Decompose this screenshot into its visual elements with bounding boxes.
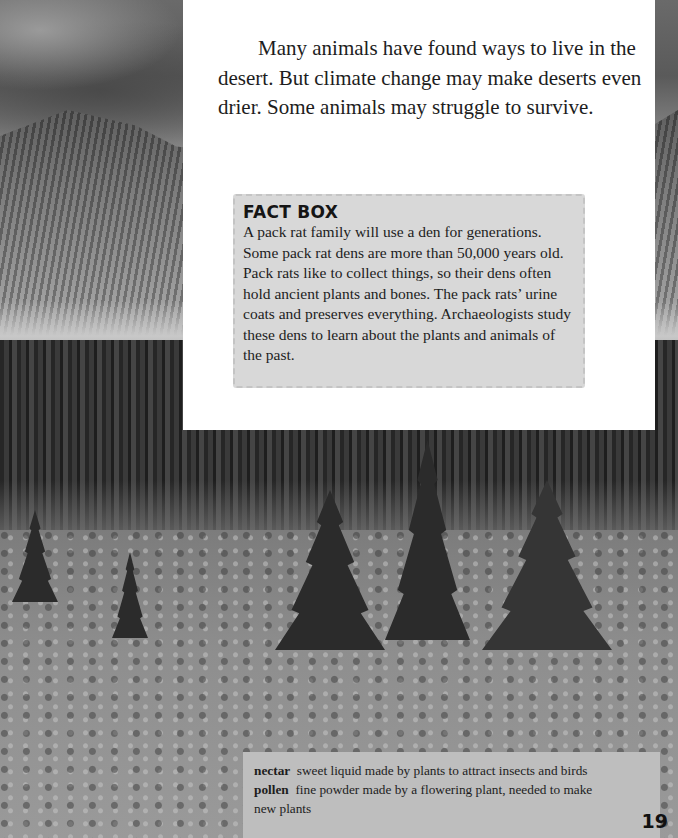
glossary-entry: nectar sweet liquid made by plants to at… [254,761,660,780]
glossary-definition: fine powder made by a flowering plant, n… [295,782,592,797]
fact-box: FACT BOX A pack rat family will use a de… [233,194,585,388]
glossary-box: nectar sweet liquid made by plants to at… [243,752,660,838]
glossary-definition: sweet liquid made by plants to attract i… [297,763,588,778]
glossary-term: nectar [254,763,290,778]
glossary-entry: pollen fine powder made by a flowering p… [254,780,660,799]
text-panel: Many animals have found ways to live in … [183,0,655,430]
fact-box-title: FACT BOX [243,202,575,222]
intro-paragraph: Many animals have found ways to live in … [218,34,658,123]
fact-box-body: A pack rat family will use a den for gen… [243,222,575,366]
glossary-continuation: new plants [254,799,660,818]
page-number: 19 [642,810,668,832]
glossary-term: pollen [254,782,289,797]
